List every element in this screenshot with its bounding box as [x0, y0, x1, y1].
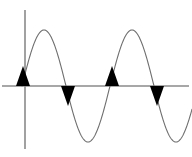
figure-canvas	[0, 0, 192, 157]
sine-wave-figure	[0, 0, 192, 157]
